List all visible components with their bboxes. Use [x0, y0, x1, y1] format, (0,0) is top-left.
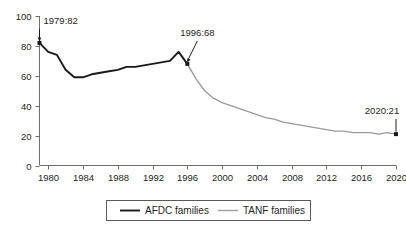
annotation-label: 1996:68 — [180, 27, 214, 38]
x-tick-label: 2004 — [247, 172, 268, 183]
x-tick-label: 1992 — [143, 172, 164, 183]
y-axis-tick-labels: 020406080100 — [16, 11, 32, 172]
x-axis-ticks — [49, 166, 397, 170]
x-axis: 1980198419881992199620002004200820122016… — [38, 166, 406, 183]
annotation-3: 2020:21 — [365, 105, 399, 136]
annotation-point-marker — [185, 62, 189, 66]
y-tick-label: 100 — [16, 11, 32, 22]
x-tick-label: 1996 — [177, 172, 198, 183]
chart-container: 020406080100 198019841988199219962000200… — [0, 0, 406, 230]
x-tick-label: 2008 — [282, 172, 303, 183]
data-series-group — [40, 43, 397, 134]
y-tick-label: 20 — [21, 131, 32, 142]
annotation-group: 1979:821996:682020:21 — [38, 15, 400, 136]
line-chart: 020406080100 198019841988199219962000200… — [0, 0, 406, 230]
x-tick-label: 2016 — [351, 172, 372, 183]
x-axis-tick-labels: 1980198419881992199620002004200820122016… — [38, 172, 406, 183]
annotation-point-marker — [38, 41, 42, 45]
x-tick-label: 2020 — [386, 172, 406, 183]
x-tick-label: 1980 — [38, 172, 59, 183]
x-tick-label: 1984 — [73, 172, 94, 183]
y-tick-label: 60 — [21, 71, 32, 82]
x-tick-label: 2012 — [316, 172, 337, 183]
series-line-tanf — [187, 64, 396, 134]
legend-label-tanf: TANF families — [243, 205, 305, 216]
x-tick-label: 1988 — [108, 172, 129, 183]
y-axis: 020406080100 — [16, 11, 40, 172]
legend-label-afdc: AFDC families — [145, 205, 209, 216]
y-tick-label: 40 — [21, 101, 32, 112]
y-tick-label: 80 — [21, 41, 32, 52]
x-tick-label: 2000 — [212, 172, 233, 183]
annotation-1: 1979:82 — [38, 15, 78, 45]
annotation-point-marker — [394, 132, 398, 136]
y-tick-label: 0 — [26, 161, 31, 172]
annotation-label: 1979:82 — [44, 15, 78, 26]
annotation-label: 2020:21 — [365, 105, 399, 116]
annotation-arrowhead — [38, 38, 42, 42]
chart-legend: AFDC families TANF families — [107, 201, 311, 221]
annotation-leader-line — [187, 41, 197, 61]
series-line-afdc — [40, 43, 188, 77]
